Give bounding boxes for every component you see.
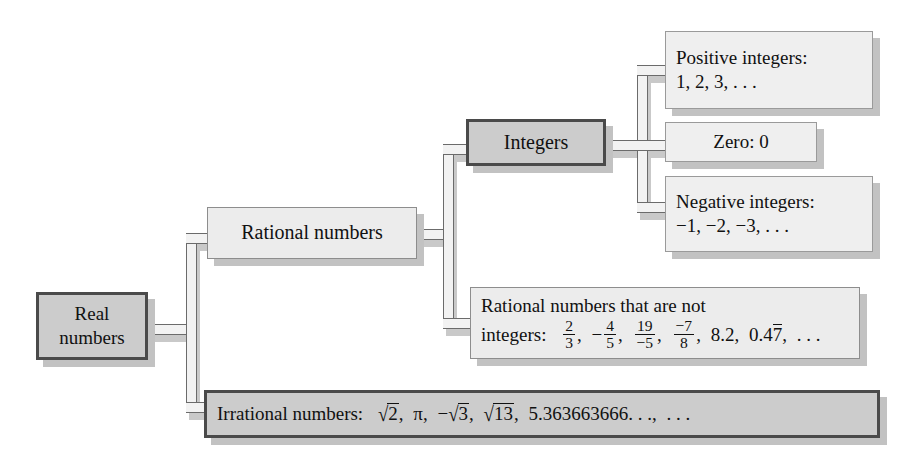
fraction-19-neg5: 19 −5 bbox=[635, 318, 656, 351]
pi-symbol: π bbox=[413, 403, 423, 424]
node-negative-integers-label: Negative integers: −1, −2, −3, . . . bbox=[676, 190, 815, 239]
node-irrational-numbers[interactable]: Irrational numbers: √2, π, −√3, √13, 5.3… bbox=[204, 390, 880, 438]
decimal-8-2: 8.2 bbox=[711, 324, 735, 345]
node-positive-integers[interactable]: Positive integers: 1, 2, 3, . . . bbox=[665, 31, 873, 109]
long-decimal: 5.363663666. . . bbox=[529, 403, 653, 424]
node-irrational-numbers-label: Irrational numbers: √2, π, −√3, √13, 5.3… bbox=[217, 402, 690, 426]
fraction-2-3: 2 3 bbox=[563, 318, 575, 351]
overline-repeat: 7 bbox=[773, 324, 783, 345]
edge-real-bus bbox=[186, 233, 197, 403]
edge-integers-bus bbox=[637, 65, 648, 210]
fraction-neg7-8: −7 8 bbox=[674, 318, 695, 351]
node-real-numbers-label: Real numbers bbox=[59, 302, 124, 351]
node-zero[interactable]: Zero: 0 bbox=[665, 122, 817, 162]
ellipsis: . . . bbox=[667, 403, 691, 424]
node-positive-integers-label: Positive integers: 1, 2, 3, . . . bbox=[676, 46, 807, 95]
node-rational-not-integers[interactable]: Rational numbers that are not integers: … bbox=[470, 287, 860, 359]
node-integers[interactable]: Integers bbox=[466, 119, 606, 166]
node-real-numbers[interactable]: Real numbers bbox=[36, 292, 148, 360]
fraction-4-5: 4 5 bbox=[604, 318, 616, 351]
node-zero-label: Zero: 0 bbox=[713, 130, 768, 154]
ellipsis: . . . bbox=[797, 324, 821, 345]
sqrt-3: √3 bbox=[448, 402, 469, 426]
repeating-decimal: 0.47 bbox=[749, 324, 782, 345]
sqrt-13: √13 bbox=[484, 402, 514, 426]
diagram-canvas: Real numbers Rational numbers Integers P… bbox=[0, 0, 915, 474]
node-rational-numbers-label: Rational numbers bbox=[241, 220, 383, 246]
node-rational-numbers[interactable]: Rational numbers bbox=[207, 207, 417, 259]
minus-sign: − bbox=[437, 403, 448, 424]
sqrt-2: √2 bbox=[378, 402, 399, 426]
edge-rational-bus bbox=[443, 144, 454, 319]
node-negative-integers[interactable]: Negative integers: −1, −2, −3, . . . bbox=[665, 176, 873, 252]
minus-sign: − bbox=[591, 324, 602, 345]
node-integers-label: Integers bbox=[504, 130, 568, 156]
node-rational-not-integers-label: Rational numbers that are not integers: … bbox=[481, 294, 820, 351]
